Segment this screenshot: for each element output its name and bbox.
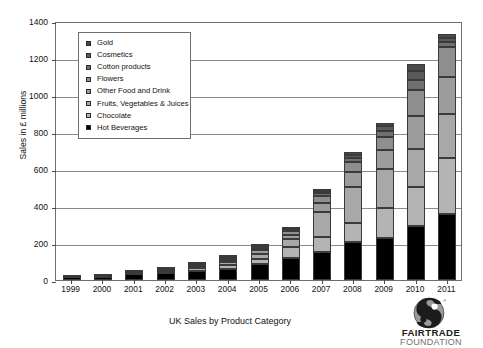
legend-swatch-icon bbox=[86, 77, 91, 82]
legend-swatch-icon bbox=[86, 101, 91, 106]
x-tick-label: 2011 bbox=[429, 285, 463, 294]
legend-item[interactable]: Fruits, Vegetables & Juices bbox=[83, 97, 186, 109]
svg-text:®: ® bbox=[443, 298, 446, 303]
legend-swatch-icon bbox=[86, 125, 91, 130]
legend-item[interactable]: Cotton products bbox=[83, 61, 186, 73]
legend-item-label: Cotton products bbox=[97, 63, 151, 71]
x-tick-label: 2004 bbox=[210, 285, 244, 294]
legend-item[interactable]: Cosmetics bbox=[83, 49, 186, 61]
legend-item-label: Hot Beverages bbox=[97, 124, 147, 132]
legend-item-label: Flowers bbox=[97, 75, 124, 83]
x-tick-label: 2006 bbox=[273, 285, 307, 294]
legend-item-label: Cosmetics bbox=[97, 51, 132, 59]
x-tick-label: 2007 bbox=[304, 285, 338, 294]
logo-line-2: FOUNDATION bbox=[383, 338, 479, 347]
legend-item[interactable]: Gold bbox=[83, 37, 186, 49]
legend-swatch-icon bbox=[86, 53, 91, 58]
x-tick-label: 2000 bbox=[85, 285, 119, 294]
x-tick-label: 2003 bbox=[179, 285, 213, 294]
logo-wordmark: FAIRTRADE FOUNDATION bbox=[383, 329, 479, 346]
chart-legend: GoldCosmeticsCotton productsFlowersOther… bbox=[78, 32, 191, 139]
legend-item[interactable]: Flowers bbox=[83, 73, 186, 85]
legend-swatch-icon bbox=[86, 41, 91, 46]
x-tick-label: 1999 bbox=[54, 285, 88, 294]
x-tick-label: 2009 bbox=[367, 285, 401, 294]
x-tick-label: 2001 bbox=[116, 285, 150, 294]
legend-swatch-icon bbox=[86, 65, 91, 70]
fairtrade-foundation-logo: ® FAIRTRADE FOUNDATION bbox=[383, 296, 479, 346]
chart-screenshot: 0200400600800100012001400 Sales in £ mil… bbox=[0, 0, 483, 348]
x-tick-label: 2002 bbox=[148, 285, 182, 294]
legend-swatch-icon bbox=[86, 89, 91, 94]
x-tick-label: 2010 bbox=[398, 285, 432, 294]
legend-item[interactable]: Hot Beverages bbox=[83, 122, 186, 134]
legend-item-label: Chocolate bbox=[97, 112, 131, 120]
legend-item-label: Gold bbox=[97, 39, 113, 47]
fairtrade-mark-icon: ® bbox=[413, 296, 447, 330]
x-tick-label: 2005 bbox=[242, 285, 276, 294]
x-tick-label: 2008 bbox=[335, 285, 369, 294]
legend-item[interactable]: Chocolate bbox=[83, 110, 186, 122]
legend-swatch-icon bbox=[86, 113, 91, 118]
legend-item[interactable]: Other Food and Drink bbox=[83, 85, 186, 97]
legend-item-label: Fruits, Vegetables & Juices bbox=[97, 100, 189, 108]
legend-item-label: Other Food and Drink bbox=[97, 87, 170, 95]
